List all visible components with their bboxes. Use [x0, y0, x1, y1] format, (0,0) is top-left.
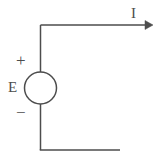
circuit-schematic-svg	[0, 0, 160, 160]
voltage-source-symbol	[25, 72, 57, 104]
circuit-diagram: I + E −	[0, 0, 160, 160]
current-direction-arrowhead	[145, 21, 153, 30]
source-label: E	[8, 80, 17, 95]
positive-terminal-label: +	[16, 52, 26, 69]
current-label: I	[131, 6, 136, 21]
negative-terminal-label: −	[16, 104, 26, 121]
